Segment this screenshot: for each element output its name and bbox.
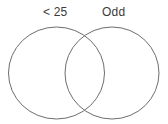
set-label-left: < 25 — [43, 6, 68, 19]
set-label-right: Odd — [102, 6, 125, 19]
venn-diagram-canvas — [0, 0, 168, 124]
set-circle-right[interactable] — [65, 27, 159, 119]
venn-diagram-figure: < 25 Odd — [0, 0, 168, 124]
